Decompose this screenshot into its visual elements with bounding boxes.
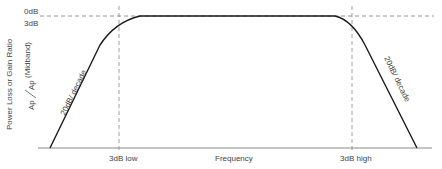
ratio-subscript: (Midband) [23,42,32,78]
x-axis-label: Frequency [215,154,253,163]
y-axis-ratio-label: Ap Ap (Midband) [23,42,36,110]
response-curve [50,16,417,148]
y-tick-0db: 0dB [24,7,38,16]
x-tick-3db-high: 3dB high [340,154,372,163]
ratio-numerator: Ap [27,100,36,110]
band-pass-response-diagram: 0dB 3dB 3dB low 3dB high Frequency Power… [0,0,442,169]
y-tick-3db: 3dB [24,19,38,28]
ratio-slash [25,90,36,98]
right-slope-annotation: 20dB/ decade [382,55,412,104]
x-tick-3db-low: 3dB low [109,154,138,163]
y-axis-label-outer: Power Loss or Gain Ratio [5,38,14,130]
ratio-denominator: Ap [27,80,36,90]
left-slope-annotation: 20dB/ decade [59,68,89,117]
